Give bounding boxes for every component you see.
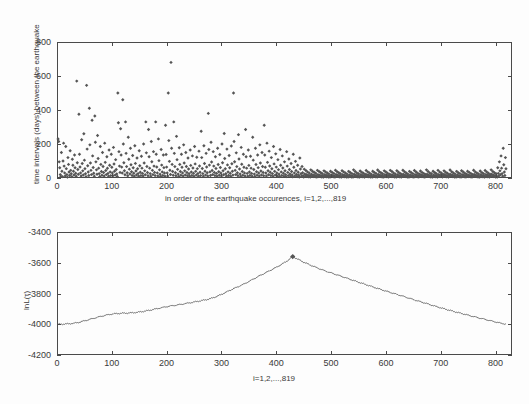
y-tick-right [508,294,512,295]
x-tick [167,351,168,355]
y-tick-label: -3400 [28,228,51,237]
figure-canvas: 01002003004005006007008000200400600800 i… [0,0,529,404]
x-tick [441,351,442,355]
x-tick-label: 700 [433,359,448,368]
y-tick-right [508,324,512,325]
x-tick-label: 600 [378,359,393,368]
x-tick-label: 500 [324,359,339,368]
y-tick [57,324,61,325]
x-tick-label: 200 [159,359,174,368]
x-tick-top [331,232,332,236]
x-tick-top [386,232,387,236]
x-tick [221,351,222,355]
y-tick [57,263,61,264]
x-tick [331,351,332,355]
y-tick-label: -4000 [28,320,51,329]
loglikelihood-yaxis-label: lnL(τ) [22,291,31,310]
x-tick-top [167,232,168,236]
x-tick-top [276,232,277,236]
x-tick-label: 300 [214,359,229,368]
y-tick-label: -4200 [28,351,51,360]
x-tick [386,351,387,355]
x-tick-top [112,232,113,236]
x-tick-label: 800 [488,359,503,368]
y-tick-label: -3600 [28,258,51,267]
x-tick-label: 400 [269,359,284,368]
x-tick-top [57,232,58,236]
y-tick-right [508,232,512,233]
x-tick-top [441,232,442,236]
y-tick-right [508,355,512,356]
peak-marker [290,254,295,259]
x-tick-label: 0 [54,359,59,368]
y-tick [57,294,61,295]
x-tick [496,351,497,355]
y-tick-label: -3800 [28,289,51,298]
loglikelihood-plot-canvas [0,0,529,404]
x-tick-label: 100 [104,359,119,368]
loglikelihood-xaxis-label: i=1,2,...,819 [253,374,295,383]
y-tick-right [508,263,512,264]
loglikelihood-curve [57,256,506,325]
y-tick [57,355,61,356]
x-tick-top [496,232,497,236]
x-tick [112,351,113,355]
x-tick-top [221,232,222,236]
x-tick [276,351,277,355]
